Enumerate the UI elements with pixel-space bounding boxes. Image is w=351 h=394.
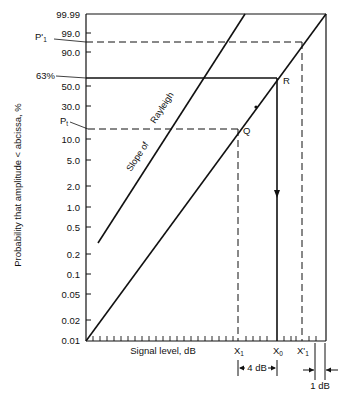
y-tick-label: 1.0 [67, 202, 80, 213]
arrow-down-icon [274, 190, 280, 198]
y-tick-label: 0.1 [67, 269, 80, 280]
label-r: R [283, 75, 290, 86]
y-tick-label: 30.0 [62, 101, 81, 112]
y-tick-label: 99.99 [56, 9, 80, 20]
label-4db: 4 dB [247, 362, 267, 373]
rayleigh-probability-diagram: 99.99 99.0 90.0 50.0 30.0 10.0 5.0 2.0 1… [0, 0, 351, 394]
y-tick-labels: 99.99 99.0 90.0 50.0 30.0 10.0 5.0 2.0 1… [56, 9, 80, 346]
x-axis-title: Signal level, dB [130, 345, 195, 356]
label-63pct: 63% [36, 70, 56, 81]
y-tick-label: 90.0 [62, 47, 81, 58]
leader-p1 [70, 122, 88, 129]
y-tick-label: 2.0 [67, 181, 80, 192]
x-ticks [93, 336, 316, 341]
arrow-left-icon [239, 366, 244, 371]
y-tick-label: 0.05 [62, 289, 81, 300]
label-x1-prime: X'1 [297, 345, 309, 357]
y-tick-label: 10.0 [62, 134, 81, 145]
y-tick-label: 5.0 [67, 155, 80, 166]
y-tick-label: 0.02 [62, 315, 81, 326]
slope-label-rayleigh: Rayleigh [148, 90, 175, 125]
direction-marker [254, 105, 257, 108]
distribution-line [86, 14, 326, 341]
arrow-left-icon [326, 368, 331, 373]
label-p1-prime: P'1 [35, 31, 47, 43]
y-axis-title: Probability that amplitude < abcissa, % [12, 103, 23, 267]
y-tick-label: 0.01 [62, 335, 81, 346]
y-ticks [86, 33, 91, 320]
span-1db [303, 343, 338, 380]
y-tick-label: 0.5 [67, 222, 80, 233]
y-tick-label: 99.0 [62, 28, 81, 39]
arrow-right-icon [309, 368, 314, 373]
label-x0: X0 [273, 345, 283, 357]
label-q: Q [243, 125, 250, 136]
line-63pct [56, 76, 86, 78]
leader-p1-prime [54, 39, 86, 42]
arrow-right-icon [271, 366, 276, 371]
y-tick-label: 50.0 [62, 81, 81, 92]
label-1db: 1 dB [310, 380, 330, 391]
y-tick-label: 0.2 [67, 249, 80, 260]
label-x1: X1 [234, 345, 244, 357]
label-p1: Pt [60, 115, 68, 127]
